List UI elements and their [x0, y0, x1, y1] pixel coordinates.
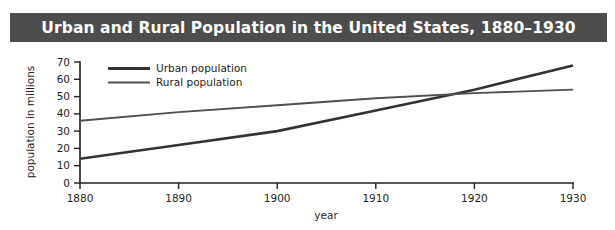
- y-tick-label: 40: [57, 107, 70, 119]
- x-tick-label: 1900: [264, 192, 291, 204]
- x-axis-title: year: [314, 209, 338, 221]
- legend-label-urban: Urban population: [156, 62, 247, 74]
- x-tick-label: 1890: [165, 192, 192, 204]
- line-chart-svg: 0 10 20 30 40 50 60 70 population in mil…: [0, 44, 615, 230]
- series-line-rural: [80, 90, 573, 121]
- x-tick-label: 1930: [560, 192, 587, 204]
- x-tick-label: 1920: [461, 192, 488, 204]
- legend-label-rural: Rural population: [156, 76, 242, 88]
- plot-area: 0 10 20 30 40 50 60 70 population in mil…: [0, 44, 615, 230]
- y-axis-title: population in millions: [24, 66, 36, 179]
- y-tick-label: 30: [57, 125, 70, 137]
- page-title: Urban and Rural Population in the United…: [41, 19, 575, 37]
- x-tick-label: 1910: [362, 192, 389, 204]
- series-line-urban: [80, 65, 573, 158]
- chart-figure: Urban and Rural Population in the United…: [0, 0, 615, 230]
- data-series-group: [80, 65, 573, 158]
- y-tick-label: 50: [57, 90, 70, 102]
- y-tick-label: 10: [57, 159, 70, 171]
- y-tick-label: 20: [57, 142, 70, 154]
- y-tick-label: 60: [57, 73, 70, 85]
- chart-title-bar: Urban and Rural Population in the United…: [10, 13, 607, 42]
- x-axis-ticks: [80, 183, 573, 189]
- y-axis-ticks: [74, 62, 80, 183]
- y-tick-label: 70: [57, 56, 70, 68]
- y-axis-tick-labels: 0 10 20 30 40 50 60 70: [57, 56, 70, 189]
- x-tick-label: 1880: [67, 192, 94, 204]
- axis-frame: [80, 62, 573, 183]
- chart-legend: Urban population Rural population: [108, 62, 247, 88]
- x-axis-tick-labels: 1880 1890 1900 1910 1920 1930: [67, 192, 587, 204]
- y-tick-label: 0: [63, 177, 70, 189]
